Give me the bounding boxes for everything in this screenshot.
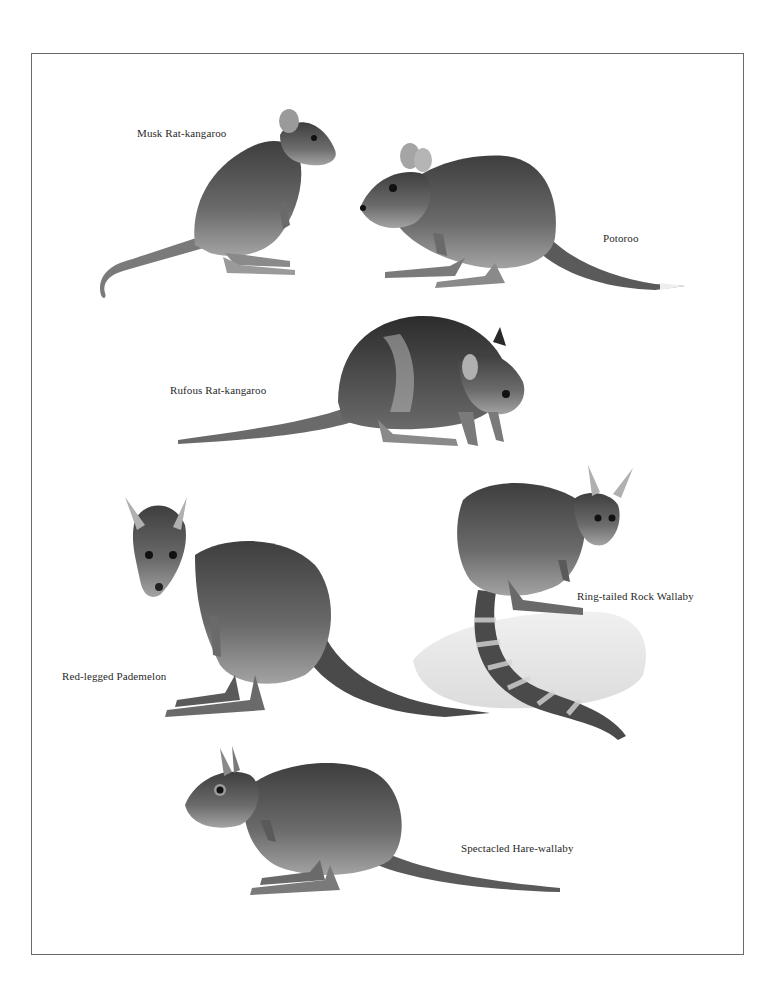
spectacled-hare-wallaby-illustration [180,740,565,895]
potoroo-illustration [355,138,690,298]
ring-tailed-rock-wallaby-illustration [408,460,658,745]
rufous-rat-kangaroo-illustration [178,312,538,452]
musk-rat-kangaroo-illustration [95,105,345,305]
